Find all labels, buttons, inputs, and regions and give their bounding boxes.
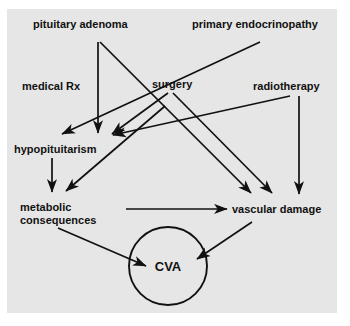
edge-radiotherapy-to-hypopituitarism [113, 96, 290, 135]
node-medical-rx: medical Rx [22, 80, 80, 93]
node-surgery: surgery [152, 78, 192, 91]
edge-pituitary-to-vascular-damage [100, 42, 251, 193]
figure-canvas: pituitary adenoma primary endocrinopathy… [0, 0, 350, 326]
node-pituitary-adenoma: pituitary adenoma [33, 18, 128, 31]
node-hypopituitarism: hypopituitarism [14, 143, 97, 156]
edge-surgery-to-vascular-damage [173, 93, 272, 193]
node-metabolic-consequences: metabolic consequences [20, 201, 115, 226]
node-primary-endocrinopathy: primary endocrinopathy [192, 18, 318, 31]
arrow-layer [0, 0, 350, 326]
edge-metabolic-to-cva [58, 228, 146, 266]
node-radiotherapy: radiotherapy [253, 80, 320, 93]
node-cva: CVA [155, 259, 181, 274]
node-vascular-damage: vascular damage [232, 203, 321, 216]
